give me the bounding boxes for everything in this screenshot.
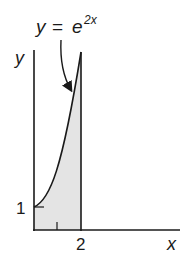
formula-equals: = xyxy=(52,16,63,37)
y-axis-label: y xyxy=(13,48,25,68)
formula-exponent: 2x xyxy=(83,13,98,27)
tick-label-y-1: 1 xyxy=(16,199,25,218)
formula-base: e xyxy=(72,16,83,37)
shaded-region xyxy=(34,52,81,230)
formula-lhs: y xyxy=(34,16,47,37)
diagram-canvas: y = e 2x y x 1 2 xyxy=(0,0,187,267)
x-axis-label: x xyxy=(166,234,177,254)
tick-label-x-2: 2 xyxy=(76,235,85,254)
pointer-arrow xyxy=(61,40,71,90)
